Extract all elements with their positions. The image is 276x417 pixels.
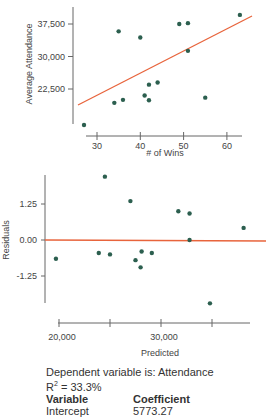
y-axis-label: Residuals xyxy=(1,220,11,260)
data-point xyxy=(108,252,112,256)
coefficient-header: Coefficient xyxy=(133,393,190,405)
data-point xyxy=(187,238,191,242)
zero-line xyxy=(45,240,266,241)
data-point xyxy=(203,95,207,99)
x-axis-label: # of Wins xyxy=(146,148,184,158)
data-point xyxy=(82,123,86,127)
data-point xyxy=(133,258,137,262)
data-point xyxy=(139,249,143,253)
data-point xyxy=(138,265,142,269)
data-point xyxy=(112,101,116,105)
y-tick-label: 30,000 xyxy=(37,52,65,62)
variable-cell: Intercept xyxy=(46,405,133,417)
data-point xyxy=(208,301,212,305)
data-point xyxy=(142,93,146,97)
x-tick-label: 30,000 xyxy=(150,332,178,342)
x-tick-label: 40 xyxy=(135,141,145,151)
data-point xyxy=(241,226,245,230)
regression-line xyxy=(78,16,252,105)
data-point xyxy=(150,251,154,255)
table-header: Variable Coefficient xyxy=(46,393,214,405)
data-point xyxy=(176,209,180,213)
data-point xyxy=(187,211,191,215)
y-tick-label: -1.25 xyxy=(16,271,37,281)
data-point xyxy=(116,29,120,33)
variable-header: Variable xyxy=(46,393,133,405)
table-row: Intercept 5773.27 xyxy=(46,405,214,417)
y-tick-label: 0.00 xyxy=(19,235,37,245)
data-point xyxy=(147,98,151,102)
data-point xyxy=(103,174,107,178)
data-point xyxy=(238,13,242,17)
residual-plot: 1.250.00-1.25 20,00030,000 Predicted Res… xyxy=(1,174,266,358)
y-tick-label: 1.25 xyxy=(19,199,37,209)
y-tick-label: 37,500 xyxy=(37,19,65,29)
regression-summary: Dependent variable is: Attendance R2 = 3… xyxy=(46,366,214,417)
data-point xyxy=(128,199,132,203)
data-point xyxy=(121,98,125,102)
data-point xyxy=(138,35,142,39)
data-point xyxy=(54,257,58,261)
x-tick-label: 60 xyxy=(222,141,232,151)
data-point xyxy=(147,82,151,86)
y-axis-label: Average Attendance xyxy=(24,24,34,105)
dependent-variable-text: Dependent variable is: Attendance xyxy=(46,366,214,378)
coefficient-cell: 5773.27 xyxy=(133,405,173,417)
x-tick-label: 30 xyxy=(92,141,102,151)
data-point xyxy=(186,49,190,53)
data-point xyxy=(177,22,181,26)
y-tick-label: 22,500 xyxy=(37,84,65,94)
scatter-plot-attendance: 22,50030,00037,500 30405060 # of Wins Av… xyxy=(24,7,252,158)
x-tick-label: 20,000 xyxy=(48,332,76,342)
x-axis-label: Predicted xyxy=(141,348,179,358)
data-point xyxy=(155,80,159,84)
data-point xyxy=(97,251,101,255)
data-point xyxy=(186,21,190,25)
r-squared-text: R2 = 33.3% xyxy=(46,378,214,393)
